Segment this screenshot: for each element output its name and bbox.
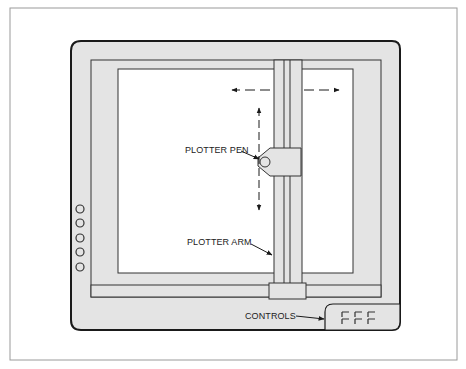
horizontal-rail	[91, 285, 381, 297]
controls-panel[interactable]	[325, 304, 400, 330]
controls-label: CONTROLS	[245, 311, 296, 321]
pen-holder[interactable]	[258, 148, 301, 176]
carriage	[269, 283, 306, 299]
plotter-pen-label: PLOTTER PEN	[185, 145, 249, 155]
plotter-arm-label: PLOTTER ARM	[187, 237, 252, 247]
plotter-diagram: PLOTTER PEN PLOTTER ARM CONTROLS	[0, 0, 466, 369]
plotter-pen	[260, 157, 270, 167]
